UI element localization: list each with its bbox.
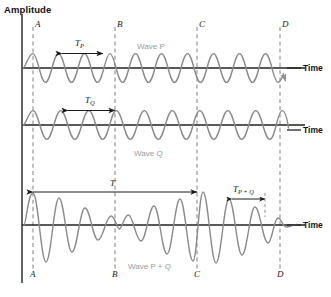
- wave-p-tail-arrow: [283, 73, 286, 81]
- wave-beats-figure: [0, 0, 331, 297]
- wave-pq-curve: [24, 192, 297, 263]
